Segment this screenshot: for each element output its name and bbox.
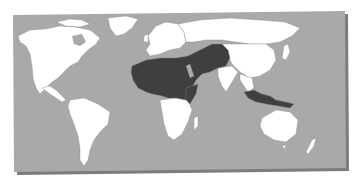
world-map (0, 0, 360, 183)
russia (178, 18, 300, 44)
